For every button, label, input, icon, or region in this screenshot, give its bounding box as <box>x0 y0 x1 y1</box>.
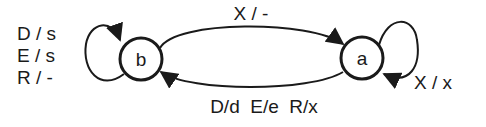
edge-b-to-a <box>160 26 343 48</box>
self-loop-b <box>85 25 124 80</box>
self-loop-a <box>379 22 418 78</box>
self-loop-a-label: X / x <box>414 72 453 93</box>
state-diagram: b a X / - D/d E/e R/x D / s E / s R / - … <box>0 0 486 127</box>
state-a: a <box>341 37 383 79</box>
self-loop-b-label-1: D / s <box>17 23 56 44</box>
edge-a-to-b-label: D/d E/e R/x <box>210 96 318 117</box>
state-a-label: a <box>357 48 368 69</box>
state-b: b <box>120 38 162 80</box>
self-loop-b-label-2: E / s <box>17 45 55 66</box>
state-b-label: b <box>136 49 147 70</box>
edge-b-to-a-label: X / - <box>234 3 269 24</box>
edge-a-to-b <box>161 72 343 87</box>
self-loop-b-label-3: R / - <box>17 67 53 88</box>
